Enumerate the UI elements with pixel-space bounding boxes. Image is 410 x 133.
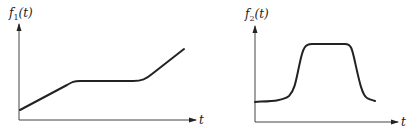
f1-curve xyxy=(20,49,184,110)
f2-y-label: f2(t) xyxy=(244,7,269,23)
diagram-canvas: f1(t) t f2(t) t xyxy=(0,0,410,133)
f1-x-label: t xyxy=(199,113,204,127)
f1-y-label: f1(t) xyxy=(8,6,33,22)
chart-f2: f2(t) t xyxy=(244,7,406,129)
f2-curve xyxy=(255,44,375,102)
f2-x-label: t xyxy=(401,115,406,129)
chart-f1: f1(t) t xyxy=(8,6,204,127)
